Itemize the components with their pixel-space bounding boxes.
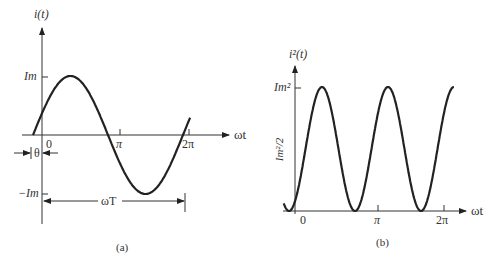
panel-b-tick-half-label: Im²/2: [274, 138, 285, 161]
panel-b-caption: (b): [376, 237, 389, 248]
panel-a-x-label: ωt: [234, 128, 246, 141]
panel-a-tick-zero-label: 0: [46, 138, 52, 150]
theta-label: θ: [34, 147, 40, 159]
panel-a-y-label: i(t): [34, 8, 49, 20]
panel-b-sine-squared-curve: [284, 87, 454, 211]
figure-canvas: [0, 0, 494, 262]
omega-t-span-label: ωT: [101, 195, 116, 207]
panel-b-tick-zero-label: 0: [300, 214, 306, 226]
panel-b-tick-pi-label: π: [374, 214, 380, 226]
panel-a-tick-neg-im-label: −Im: [18, 187, 39, 199]
panel-b-x-label: ωt: [471, 204, 483, 217]
panel-a-tick-2pi-label: 2π: [182, 138, 194, 150]
panel-a-axes: [14, 28, 229, 224]
panel-a-tick-im-label: Im: [24, 70, 37, 82]
panel-a-tick-pi-label: π: [116, 138, 122, 150]
panel-b-tick-2pi-label: 2π: [436, 214, 448, 226]
panel-b-tick-im2-label: Im²: [274, 81, 290, 93]
panel-a-caption: (a): [116, 242, 128, 253]
panel-b-y-label: i²(t): [289, 48, 307, 60]
